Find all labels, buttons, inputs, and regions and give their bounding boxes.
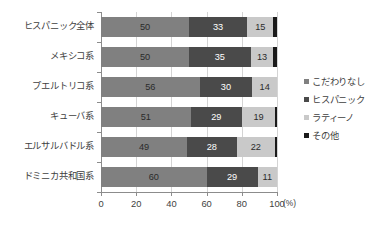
gridline <box>136 12 137 192</box>
x-axis-line <box>101 192 277 193</box>
bar-segment-value: 60 <box>101 167 207 187</box>
gridline <box>171 12 172 192</box>
gridline <box>277 12 278 192</box>
bar-segment: 60 <box>101 167 207 187</box>
bar-segment: 28 <box>187 137 236 157</box>
bar-segment-value: 51 <box>101 107 191 127</box>
bar-segment-value: 15 <box>247 17 273 37</box>
bar-segment: 35 <box>189 47 251 67</box>
legend-label: ラティーノ <box>312 110 354 124</box>
bar-segment-value: 19 <box>242 107 275 127</box>
gridline <box>242 12 243 192</box>
category-label: メキシコ系 <box>0 51 94 62</box>
y-tick-mark <box>97 42 101 43</box>
y-tick-mark <box>97 192 101 193</box>
bar-segment <box>275 137 277 157</box>
x-tick-label: 80 <box>222 198 262 209</box>
bar-segment: 13 <box>251 47 274 67</box>
bar-segment: 19 <box>242 107 275 127</box>
legend-swatch-icon <box>304 115 309 120</box>
category-axis-labels: ヒスパニック全体メキシコ系プエルトリコ系キューバ系エルサルバドル系ドミニカ共和国… <box>0 12 96 192</box>
y-tick-mark <box>97 132 101 133</box>
x-tick-mark <box>171 192 172 196</box>
bar-segment: 29 <box>191 107 242 127</box>
x-tick-label: 0 <box>81 198 121 209</box>
bar-segment: 51 <box>101 107 191 127</box>
bar-segment <box>273 47 277 67</box>
x-tick-mark <box>207 192 208 196</box>
bar-segment-value: 14 <box>252 77 277 97</box>
bar-segment: 56 <box>101 77 200 97</box>
stacked-bar-chart: ヒスパニック全体メキシコ系プエルトリコ系キューバ系エルサルバドル系ドミニカ共和国… <box>0 0 389 229</box>
category-label: エルサルバドル系 <box>0 141 94 152</box>
bar-segment: 49 <box>101 137 187 157</box>
bar-segment-value: 29 <box>191 107 242 127</box>
x-tick-mark <box>136 192 137 196</box>
legend-swatch-icon <box>304 79 309 84</box>
bar-segment-value: 11 <box>258 167 277 187</box>
bar-segment-value: 30 <box>200 77 253 97</box>
plot-area: 020406080100(%)5033155035135630145129194… <box>101 12 277 192</box>
y-tick-mark <box>97 162 101 163</box>
bar-segment: 29 <box>207 167 258 187</box>
y-tick-mark <box>97 102 101 103</box>
x-tick-mark <box>242 192 243 196</box>
y-tick-mark <box>97 72 101 73</box>
legend-label: ヒスパニック <box>312 92 365 106</box>
x-tick-label: 20 <box>116 198 156 209</box>
bar-segment <box>273 17 277 37</box>
bar-segment <box>275 107 277 127</box>
legend-item[interactable]: ヒスパニック <box>304 90 389 108</box>
bar-segment: 30 <box>200 77 253 97</box>
category-label: ドミニカ共和国系 <box>0 171 94 182</box>
legend-item[interactable]: ラティーノ <box>304 108 389 126</box>
bar-segment: 22 <box>237 137 276 157</box>
bar-segment-value: 33 <box>189 17 247 37</box>
legend-label: こだわりなし <box>312 74 365 88</box>
bar-segment: 11 <box>258 167 277 187</box>
bar-segment-value: 13 <box>251 47 274 67</box>
x-tick-mark <box>101 192 102 196</box>
legend-swatch-icon <box>304 133 309 138</box>
x-tick-label: 40 <box>151 198 191 209</box>
x-axis-unit-label: (%) <box>283 198 296 208</box>
bar-segment: 15 <box>247 17 273 37</box>
bar-segment-value: 56 <box>101 77 200 97</box>
bar-segment: 50 <box>101 17 189 37</box>
x-tick-label: 60 <box>187 198 227 209</box>
bar-segment-value: 22 <box>237 137 276 157</box>
bar-segment-value: 50 <box>101 47 189 67</box>
bar-segment-value: 29 <box>207 167 258 187</box>
category-label: プエルトリコ系 <box>0 81 94 92</box>
gridline <box>207 12 208 192</box>
bar-segment-value: 49 <box>101 137 187 157</box>
category-label: キューバ系 <box>0 111 94 122</box>
bar-segment: 14 <box>252 77 277 97</box>
x-tick-mark <box>277 192 278 196</box>
chart-legend: こだわりなしヒスパニックラティーノその他 <box>304 72 389 144</box>
bar-segment: 50 <box>101 47 189 67</box>
bar-segment-value: 50 <box>101 17 189 37</box>
bar-segment: 33 <box>189 17 247 37</box>
y-axis-line <box>101 12 102 192</box>
legend-swatch-icon <box>304 97 309 102</box>
bar-segment-value: 28 <box>187 137 236 157</box>
category-label: ヒスパニック全体 <box>0 21 94 32</box>
y-tick-mark <box>97 12 101 13</box>
legend-item[interactable]: こだわりなし <box>304 72 389 90</box>
legend-item[interactable]: その他 <box>304 126 389 144</box>
bar-segment-value: 35 <box>189 47 251 67</box>
legend-label: その他 <box>312 128 338 142</box>
